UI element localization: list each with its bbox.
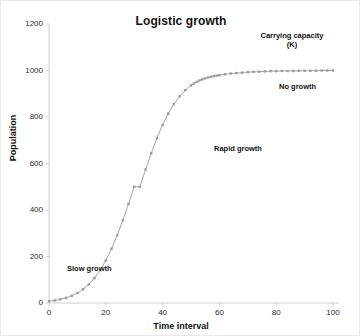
annotation-carrying-capacity-line1: Carrying capacity: [231, 31, 353, 40]
annotation-carrying-capacity: Carrying capacity (K): [231, 31, 353, 50]
y-tick-label: 1200: [17, 19, 43, 28]
y-tick-label: 200: [17, 252, 43, 261]
annotation-slow-growth: Slow growth: [67, 264, 112, 273]
y-tick-label: 400: [17, 205, 43, 214]
y-tick-label: 600: [17, 159, 43, 168]
annotation-no-growth: No growth: [279, 82, 316, 91]
x-tick-label: 20: [94, 308, 118, 317]
logistic-growth-chart: Logistic growth Population Time interval…: [0, 0, 360, 336]
x-tick-label: 40: [151, 308, 175, 317]
y-tick-label: 0: [17, 298, 43, 307]
x-tick-label: 80: [264, 308, 288, 317]
annotation-rapid-growth: Rapid growth: [214, 144, 262, 153]
chart-title: Logistic growth: [1, 14, 360, 28]
y-tick-label: 800: [17, 112, 43, 121]
x-axis-title: Time interval: [1, 321, 360, 331]
y-tick-label: 1000: [17, 66, 43, 75]
x-tick-label: 0: [37, 308, 61, 317]
x-tick-label: 60: [207, 308, 231, 317]
chart-plot-area: [1, 1, 360, 336]
annotation-carrying-capacity-line2: (K): [231, 40, 353, 49]
x-tick-label: 100: [321, 308, 345, 317]
axis-lines: [49, 24, 339, 303]
